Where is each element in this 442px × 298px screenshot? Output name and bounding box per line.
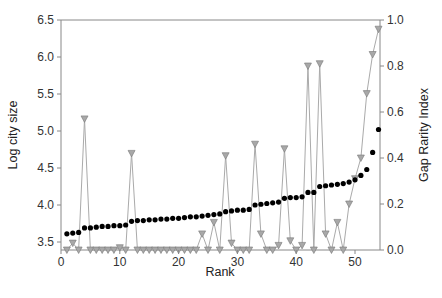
- size-marker: [88, 225, 93, 230]
- size-marker: [158, 216, 163, 221]
- size-marker: [147, 217, 152, 222]
- y-tick-label: 6.0: [37, 50, 54, 64]
- size-marker: [335, 182, 340, 187]
- size-marker: [111, 223, 116, 228]
- size-marker: [282, 196, 287, 201]
- gap-marker: [316, 61, 323, 67]
- gap-marker: [287, 238, 294, 245]
- size-marker: [64, 231, 69, 236]
- gap-marker: [81, 116, 88, 123]
- gap-marker: [252, 141, 259, 148]
- size-marker: [223, 209, 228, 214]
- y-tick-label: 5.0: [37, 124, 54, 138]
- gap-marker: [346, 201, 353, 208]
- y2-axis-label: Gap Rarity Index: [417, 87, 431, 182]
- x-tick-label: 10: [113, 255, 127, 269]
- chart: 010203040503.54.04.55.05.56.06.50.00.20.…: [0, 0, 442, 298]
- x-tick-label: 20: [172, 255, 186, 269]
- gap-marker: [375, 26, 382, 33]
- size-marker: [258, 202, 263, 207]
- y-tick-label: 6.5: [37, 13, 54, 27]
- x-tick-label: 0: [58, 255, 65, 269]
- size-marker: [194, 214, 199, 219]
- y-tick-label: 4.5: [37, 161, 54, 175]
- y-tick-label: 4.0: [37, 198, 54, 212]
- x-tick-label: 40: [290, 255, 304, 269]
- size-marker: [270, 200, 275, 205]
- size-marker: [364, 167, 369, 172]
- size-marker: [76, 230, 81, 235]
- size-marker: [182, 215, 187, 220]
- gap-marker: [222, 153, 229, 160]
- x-axis-label: Rank: [205, 265, 235, 279]
- y-axis-label: Log city size: [6, 101, 20, 170]
- gap-marker: [369, 52, 376, 59]
- y-tick-label: 3.5: [37, 235, 54, 249]
- gap-marker: [199, 231, 206, 238]
- gap-marker: [128, 150, 135, 157]
- size-marker: [176, 216, 181, 221]
- size-marker: [70, 231, 75, 236]
- size-marker: [276, 199, 281, 204]
- size-marker: [205, 213, 210, 218]
- gap-marker: [363, 91, 370, 98]
- size-marker: [200, 214, 205, 219]
- size-marker: [100, 224, 105, 229]
- size-marker: [188, 214, 193, 219]
- size-marker: [217, 211, 222, 216]
- y2-tick-label: 0.8: [387, 59, 404, 73]
- y2-tick-label: 0.4: [387, 151, 404, 165]
- size-marker: [82, 225, 87, 230]
- size-marker: [252, 202, 257, 207]
- size-marker: [323, 183, 328, 188]
- size-marker: [105, 224, 110, 229]
- gap-marker: [281, 146, 288, 153]
- size-marker: [317, 184, 322, 189]
- size-marker: [352, 177, 357, 182]
- y2-tick-label: 0.0: [387, 243, 404, 257]
- size-marker: [123, 222, 128, 227]
- size-marker: [135, 218, 140, 223]
- size-marker: [329, 182, 334, 187]
- gap-marker: [304, 63, 311, 70]
- size-marker: [311, 190, 316, 195]
- size-marker: [294, 195, 299, 200]
- size-marker: [211, 212, 216, 217]
- y2-tick-label: 0.2: [387, 197, 404, 211]
- gap-marker: [357, 155, 364, 162]
- size-marker: [94, 225, 99, 230]
- size-marker: [370, 150, 375, 155]
- size-marker: [117, 223, 122, 228]
- size-marker: [141, 218, 146, 223]
- size-marker: [129, 219, 134, 224]
- size-marker: [341, 181, 346, 186]
- y-tick-label: 5.5: [37, 87, 54, 101]
- size-marker: [152, 217, 157, 222]
- gap-marker: [334, 219, 341, 226]
- size-marker: [170, 216, 175, 221]
- size-marker: [288, 195, 293, 200]
- y2-tick-label: 0.6: [387, 105, 404, 119]
- size-marker: [241, 208, 246, 213]
- size-marker: [164, 216, 169, 221]
- y2-tick-label: 1.0: [387, 13, 404, 27]
- size-marker: [247, 207, 252, 212]
- gap-marker: [210, 219, 217, 226]
- x-tick-label: 50: [348, 255, 362, 269]
- size-marker: [305, 190, 310, 195]
- size-marker: [264, 201, 269, 206]
- size-marker: [299, 194, 304, 199]
- size-marker: [229, 208, 234, 213]
- size-marker: [347, 179, 352, 184]
- gap-rarity-series: [63, 26, 382, 253]
- gap-marker: [257, 231, 264, 238]
- gap-marker: [322, 231, 329, 238]
- log-city-size-series: [64, 127, 381, 237]
- size-marker: [376, 127, 381, 132]
- size-marker: [235, 208, 240, 213]
- size-marker: [358, 173, 363, 178]
